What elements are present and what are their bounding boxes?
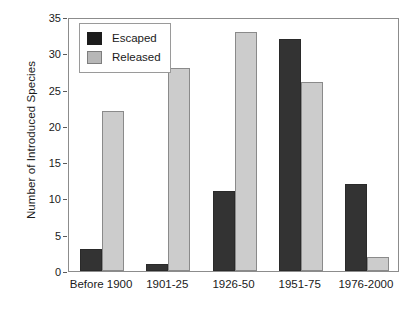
bar-released-4 [367,257,389,272]
y-axis-tick-label: 35 [30,11,61,25]
x-axis-tick-label: 1901-25 [134,276,200,292]
legend-label-escaped: Escaped [112,32,157,45]
chart-legend: Escaped Released [79,23,171,73]
legend-item-escaped: Escaped [87,29,161,48]
y-axis-tick-label: 0 [30,265,61,279]
bar-released-1 [168,68,190,271]
x-axis-tick-label: 1951-75 [267,276,333,292]
x-axis-tick-label: 1926-50 [200,276,266,292]
y-axis-tick-mark [63,236,67,237]
y-axis-tick-label: 20 [30,120,61,134]
x-axis-tick-label: Before 1900 [68,276,134,292]
y-axis-tick-label: 30 [30,47,61,61]
y-axis-tick-mark [63,163,67,164]
y-axis-tick-mark [63,199,67,200]
y-axis-tick-mark [63,18,67,19]
bar-escaped-2 [213,191,235,271]
bar-escaped-1 [146,264,168,271]
y-axis-tick-mark [63,272,67,273]
legend-swatch-released [87,51,102,64]
y-axis-tick-labels: 05101520253035 [30,11,61,279]
bar-released-2 [235,32,257,271]
y-axis-tick-label: 25 [30,84,61,98]
bar-escaped-0 [80,249,102,271]
legend-swatch-escaped [87,32,102,45]
legend-label-released: Released [112,51,161,64]
bar-escaped-4 [345,184,367,271]
bar-released-3 [301,82,323,271]
y-axis-tick-mark [63,127,67,128]
legend-item-released: Released [87,48,161,67]
y-axis-tick-label: 15 [30,156,61,170]
plot-area: Escaped Released [68,18,399,272]
y-axis-tick-label: 10 [30,192,61,206]
y-axis-tick-mark [63,91,67,92]
bar-chart: Number of Introduced Species 05101520253… [0,0,413,309]
y-axis-tick-label: 5 [30,229,61,243]
bar-escaped-3 [279,39,301,271]
x-axis-tick-label: 1976-2000 [333,276,399,292]
y-axis-tick-mark [63,54,67,55]
x-axis-tick-labels: Before 19001901-251926-501951-751976-200… [68,276,399,296]
bar-released-0 [102,111,124,271]
